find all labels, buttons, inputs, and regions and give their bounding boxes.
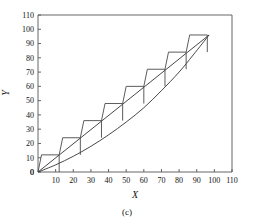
y-tick-label: 30	[26, 125, 34, 134]
y-tick-label: 60	[26, 82, 34, 91]
y-tick-label: 50	[26, 96, 34, 105]
y-tick-label: 80	[26, 54, 34, 63]
x-tick-label: 90	[193, 176, 201, 185]
x-axis-tick-labels: 0102030405060708090100110	[30, 168, 238, 185]
x-tick-label: 0	[30, 168, 34, 177]
x-tick-label: 40	[105, 176, 113, 185]
x-tick-label: 80	[175, 176, 183, 185]
x-tick-label: 20	[69, 176, 77, 185]
y-tick-label: 10	[26, 154, 34, 163]
x-tick-label: 10	[52, 176, 60, 185]
y-tick-label: 70	[26, 68, 34, 77]
x-tick-label: 70	[157, 176, 165, 185]
figure-panel: 0102030405060708090100110 01020304050607…	[0, 0, 255, 224]
y-tick-label: 110	[22, 11, 34, 20]
x-tick-label: 30	[87, 176, 95, 185]
y-tick-label: 90	[26, 39, 34, 48]
y-tick-label: 20	[26, 139, 34, 148]
y-axis-tick-labels: 0102030405060708090100110	[22, 11, 34, 177]
chart-canvas: 0102030405060708090100110 01020304050607…	[0, 0, 255, 224]
x-tick-label: 60	[140, 176, 148, 185]
x-axis-title: X	[131, 189, 139, 200]
y-tick-label: 100	[22, 25, 34, 34]
x-tick-label: 100	[208, 176, 220, 185]
series-chord-line	[38, 35, 209, 172]
y-axis-title: Y	[0, 89, 11, 96]
y-tick-label: 40	[26, 111, 34, 120]
x-tick-label: 110	[226, 176, 238, 185]
x-tick-label: 50	[122, 176, 130, 185]
figure-caption: (c)	[122, 207, 132, 217]
data-series-group	[38, 35, 209, 172]
